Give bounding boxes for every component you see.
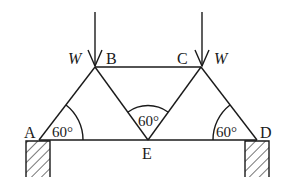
node-label-A: A [24, 124, 36, 141]
load-arrow-C [195, 12, 209, 66]
load-arrow-B [88, 12, 102, 66]
support-right [245, 141, 269, 177]
truss-diagram: W B C W A D E 60° 60° 60° [0, 0, 293, 184]
angle-label-A: 60° [52, 124, 73, 140]
support-left [26, 141, 50, 177]
angle-label-D: 60° [216, 124, 237, 140]
member-CE [148, 67, 201, 140]
node-label-D: D [260, 124, 272, 141]
load-label-C: W [214, 50, 229, 67]
member-BE [95, 67, 148, 140]
node-label-E: E [142, 145, 152, 162]
angle-arc-E [128, 105, 168, 112]
node-label-B: B [106, 50, 117, 67]
node-label-C: C [177, 50, 188, 67]
load-label-B: W [68, 50, 83, 67]
angle-label-E: 60° [138, 113, 159, 129]
